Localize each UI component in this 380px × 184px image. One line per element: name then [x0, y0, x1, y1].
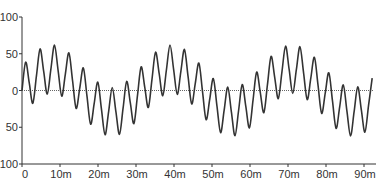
line-chart: 10050050100 010m20m30m40m50m60m70m80m90m [0, 0, 380, 184]
x-tick-label: 70m [278, 168, 299, 180]
y-tick-label: 0 [12, 85, 18, 97]
x-axis: 010m20m30m40m50m60m70m80m90m [22, 164, 376, 180]
x-tick-label: 0 [22, 168, 28, 180]
x-tick-label: 20m [88, 168, 109, 180]
x-tick-label: 80m [316, 168, 337, 180]
x-tick-label: 50m [202, 168, 223, 180]
y-tick-label: 100 [0, 11, 18, 23]
x-tick-label: 40m [164, 168, 185, 180]
x-tick-label: 10m [50, 168, 71, 180]
y-tick-label: 100 [0, 158, 18, 170]
x-tick-label: 30m [126, 168, 147, 180]
x-tick-label: 90m [354, 168, 375, 180]
y-tick-label: 50 [6, 48, 18, 60]
y-tick-label: 50 [6, 121, 18, 133]
y-axis: 10050050100 [0, 11, 22, 170]
x-tick-label: 60m [240, 168, 261, 180]
